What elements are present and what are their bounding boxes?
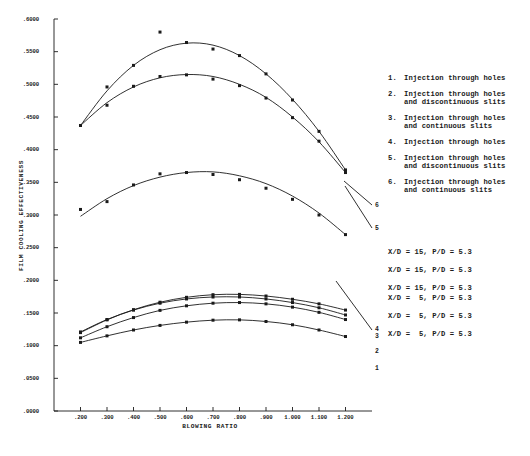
x-tick-marks	[81, 407, 346, 411]
legend-item-number: 2.	[388, 90, 404, 99]
x-tick-label: .900	[251, 414, 281, 421]
legend-item-number: 4.	[388, 138, 404, 147]
curve-end-label-3: 3	[375, 333, 379, 340]
legend-item-number: 6.	[388, 178, 404, 187]
x-tick-label: .600	[172, 414, 202, 421]
legend-item-6: 6.Injection through holes and continuous…	[388, 178, 530, 195]
parameter-row-1: X/D = 15, P/D = 5.3	[388, 248, 530, 257]
legend-item-2: 2.Injection through holes and discontinu…	[388, 90, 530, 107]
y-tick-label: .1000	[13, 342, 39, 349]
curve-end-label-5: 5	[375, 225, 379, 232]
legend-item-label: Injection through holes and continuous s…	[404, 114, 506, 131]
y-tick-label: .0500	[13, 375, 39, 382]
y-tick-label: .5500	[13, 48, 39, 55]
legend-item-4: 4.Injection through holes	[388, 138, 530, 147]
legend-item-number: 3.	[388, 114, 404, 123]
x-tick-label: 1.100	[304, 414, 334, 421]
y-tick-label: .1500	[13, 310, 39, 317]
legend-item-1: 1.Injection through holes	[388, 74, 530, 83]
legend-item-label: Injection through holes and continuous s…	[404, 178, 506, 195]
x-tick-label: .800	[225, 414, 255, 421]
x-tick-label: .300	[92, 414, 122, 421]
curve-end-label-1: 1	[375, 365, 379, 372]
legend-item-label: Injection through holes	[404, 74, 506, 83]
legend-item-number: 5.	[388, 154, 404, 163]
parameter-row-4: X/D = 5, P/D = 5.3	[388, 294, 530, 303]
y-axis-title: FILM COOLING EFFECTIVENESS	[18, 151, 25, 281]
legend-item-3: 3.Injection through holes and continuous…	[388, 114, 530, 131]
legend-item-label: Injection through holes	[404, 138, 506, 147]
parameter-row-3: X/D = 15, P/D = 5.3	[388, 284, 530, 293]
x-tick-label: .500	[145, 414, 175, 421]
legend-item-5: 5.Injection through holes and discontinu…	[388, 154, 530, 171]
legend: 1.Injection through holes2.Injection thr…	[388, 74, 530, 202]
plot-canvas	[0, 0, 530, 456]
y-tick-label: .5000	[13, 81, 39, 88]
parameter-row-2: X/D = 15, P/D = 5.3	[388, 266, 530, 275]
y-tick-label: .0000	[13, 408, 39, 415]
parameter-row-5: X/D = 5, P/D = 5.3	[388, 312, 530, 321]
x-tick-label: .400	[119, 414, 149, 421]
parameter-row-6: X/D = 5, P/D = 5.3	[388, 330, 530, 339]
x-tick-label: .200	[66, 414, 96, 421]
y-tick-label: .4500	[13, 114, 39, 121]
parameter-list: X/D = 15, P/D = 5.3X/D = 15, P/D = 5.3X/…	[388, 248, 530, 349]
x-tick-label: 1.000	[278, 414, 308, 421]
legend-item-number: 1.	[388, 74, 404, 83]
figure: .6000.5500.5000.4500.4000.3500.3000.2500…	[0, 0, 530, 456]
curve-end-label-4: 4	[375, 326, 379, 333]
x-axis-title: BLOWING RATIO	[130, 423, 290, 430]
x-tick-label: .700	[198, 414, 228, 421]
curve-end-label-2: 2	[375, 348, 379, 355]
curve-end-label-6: 6	[375, 202, 379, 209]
legend-item-label: Injection through holes and discontinuou…	[404, 154, 506, 171]
y-tick-label: .6000	[13, 16, 39, 23]
y-tick-marks	[54, 19, 58, 411]
curve-leader-lines	[336, 181, 372, 330]
legend-item-label: Injection through holes and discontinuou…	[404, 90, 506, 107]
x-tick-label: 1.200	[331, 414, 361, 421]
